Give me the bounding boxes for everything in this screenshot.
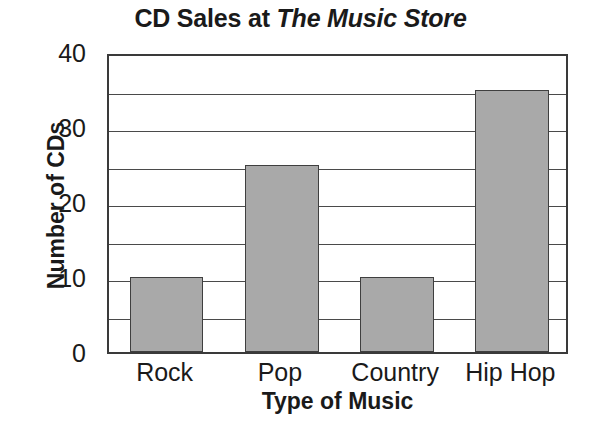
x-axis-tick-labels: RockPopCountryHip Hop — [107, 358, 568, 388]
x-tick-label-pop: Pop — [222, 358, 337, 387]
x-tick-label-rock: Rock — [107, 358, 222, 387]
chart-title: CD Sales at The Music Store — [0, 4, 601, 33]
y-tick-label-10: 10 — [0, 266, 98, 291]
bar-pop[interactable] — [245, 165, 319, 353]
bar-rock[interactable] — [130, 277, 204, 352]
x-tick-label-hip-hop: Hip Hop — [453, 358, 568, 387]
y-tick-label-20: 20 — [0, 191, 98, 216]
x-axis-title: Type of Music — [107, 388, 568, 415]
y-tick-label-0: 0 — [0, 341, 98, 366]
x-tick-label-country: Country — [338, 358, 453, 387]
bar-hip-hop[interactable] — [475, 90, 549, 353]
plot-area — [107, 54, 568, 354]
y-axis-tick-labels: 010203040 — [0, 54, 98, 354]
y-tick-label-30: 30 — [0, 116, 98, 141]
chart-title-plain: CD Sales at — [134, 4, 276, 32]
bars-layer — [109, 56, 566, 352]
bar-country[interactable] — [360, 277, 434, 352]
chart-title-emphasis: The Music Store — [277, 4, 467, 32]
y-tick-label-40: 40 — [0, 41, 98, 66]
